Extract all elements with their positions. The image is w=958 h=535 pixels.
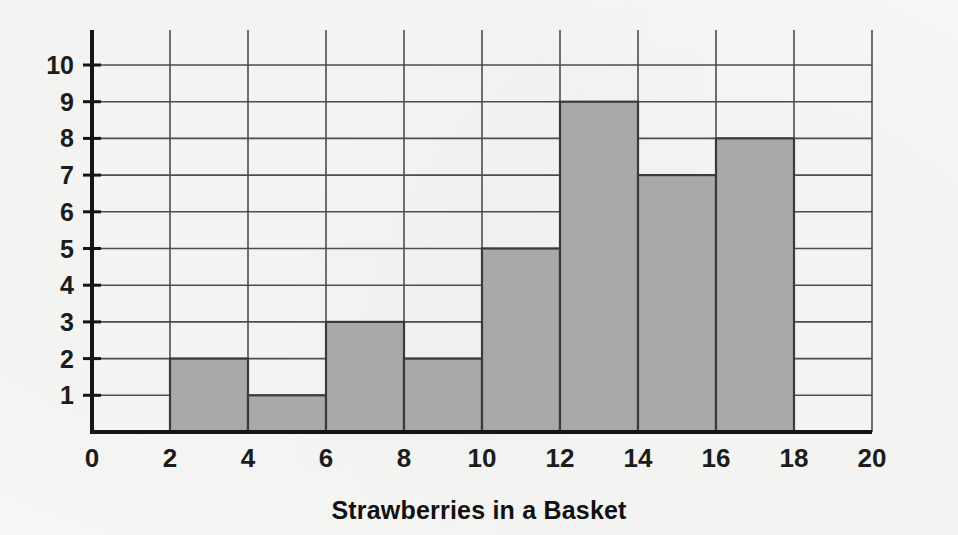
x-axis-title: Strawberries in a Basket [331, 496, 627, 524]
histogram-bar [326, 322, 404, 432]
x-axis-tick-label: 10 [468, 443, 497, 473]
y-axis-tick-label: 6 [60, 198, 74, 226]
y-axis-tick-label: 2 [60, 345, 74, 373]
histogram-bar [560, 102, 638, 432]
x-axis-tick-label: 14 [624, 443, 653, 473]
x-axis-tick-label: 20 [858, 443, 887, 473]
histogram-bar [170, 359, 248, 432]
y-axis-tick-label: 3 [60, 308, 74, 336]
x-axis-tick-label: 4 [241, 443, 256, 473]
histogram-bar [482, 249, 560, 433]
x-axis-tick-label: 2 [163, 443, 177, 473]
x-axis-tick-label: 16 [702, 443, 731, 473]
y-axis-tick-label: 4 [60, 271, 74, 299]
histogram-plot-area: 12345678910 02468101214161820 Strawberri… [0, 0, 958, 535]
histogram-bar [404, 359, 482, 432]
x-axis-tick-label: 18 [780, 443, 809, 473]
y-axis-tick-label: 5 [60, 235, 74, 263]
histogram-bar [716, 138, 794, 432]
histogram-figure: 12345678910 02468101214161820 Strawberri… [0, 0, 958, 535]
x-axis-ticks: 02468101214161820 [85, 443, 887, 473]
x-axis-tick-label: 8 [397, 443, 411, 473]
histogram-bar [638, 175, 716, 432]
y-axis-tick-label: 8 [60, 124, 74, 152]
x-axis-tick-label: 6 [319, 443, 333, 473]
x-axis-tick-label: 0 [85, 443, 99, 473]
y-axis-tick-label: 9 [60, 88, 74, 116]
x-axis-tick-label: 12 [546, 443, 575, 473]
histogram-bar [248, 395, 326, 432]
y-axis-tick-label: 10 [46, 51, 74, 79]
y-axis-tick-label: 1 [60, 381, 74, 409]
y-axis-tick-label: 7 [60, 161, 74, 189]
